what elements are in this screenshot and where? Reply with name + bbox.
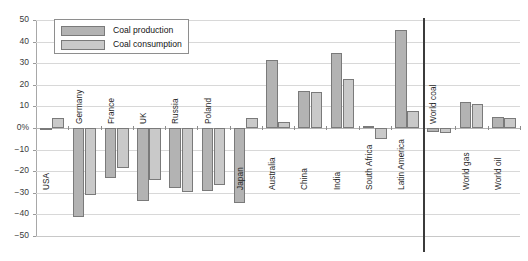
bar-prod	[137, 128, 149, 201]
bar-cons	[278, 122, 290, 128]
legend-swatch-coal-consumption	[61, 40, 105, 50]
bar-prod	[363, 126, 375, 128]
x-axis-tick	[391, 126, 392, 130]
bar-cons	[311, 92, 323, 128]
x-axis-category-label: Germany	[75, 90, 84, 124]
bar-prod	[460, 102, 472, 128]
x-axis-category-label: China	[300, 168, 309, 190]
chart-legend: Coal production Coal consumption	[54, 19, 189, 54]
x-axis-tick	[197, 126, 198, 130]
bar-prod	[298, 91, 310, 128]
bar-cons	[182, 128, 194, 192]
bar-prod	[492, 117, 504, 128]
y-axis-label: 10	[0, 100, 29, 110]
bar-prod	[169, 128, 181, 188]
x-axis-category-label: Poland	[204, 98, 213, 124]
bar-cons	[85, 128, 97, 195]
y-axis-label: −20	[0, 165, 29, 175]
y-axis-label: 20	[0, 79, 29, 89]
x-axis-tick	[68, 126, 69, 130]
x-axis-category-label: USA	[42, 173, 51, 190]
x-axis-category-label: World coal	[429, 84, 438, 124]
bar-prod	[266, 60, 278, 128]
bar-cons	[52, 118, 64, 128]
bar-cons	[440, 128, 452, 133]
bar-prod	[395, 30, 407, 128]
bar-cons	[117, 128, 129, 168]
x-axis-category-label: Australia	[268, 157, 277, 190]
x-axis-tick	[326, 126, 327, 130]
y-axis-label: −10	[0, 144, 29, 154]
x-axis-tick	[133, 126, 134, 130]
bar-cons	[149, 128, 161, 180]
x-axis-tick	[455, 126, 456, 130]
bar-cons	[214, 128, 226, 185]
coal-production-consumption-chart: 50403020100%−10−20−30−40−50 USAGermanyFr…	[0, 0, 528, 261]
x-axis-category-label: UK	[139, 112, 148, 124]
x-axis-tick	[165, 126, 166, 130]
y-axis-label: 0%	[0, 122, 29, 132]
x-axis-tick	[230, 126, 231, 130]
legend-swatch-coal-production	[61, 26, 105, 36]
y-axis-tick	[33, 236, 36, 237]
x-axis-tick	[488, 126, 489, 130]
x-axis-tick	[520, 126, 521, 130]
x-axis-category-label: World oil	[494, 157, 503, 190]
bar-prod	[331, 53, 343, 128]
bar-prod	[105, 128, 117, 178]
gridline	[36, 236, 520, 237]
bar-prod	[40, 128, 52, 130]
bar-cons	[504, 118, 516, 128]
bar-prod	[73, 128, 85, 217]
y-axis-label: −40	[0, 208, 29, 218]
x-axis-category-label: South Africa	[365, 145, 374, 190]
y-axis-label: 30	[0, 57, 29, 67]
y-axis-label: 40	[0, 36, 29, 46]
legend-label-coal-consumption: Coal consumption	[113, 39, 182, 49]
bar-cons	[375, 128, 387, 139]
x-axis-tick	[294, 126, 295, 130]
bar-prod	[202, 128, 214, 191]
bar-cons	[407, 111, 419, 128]
x-axis-category-label: France	[107, 98, 116, 124]
x-axis-category-label: Latin America	[397, 139, 406, 190]
x-axis-tick	[359, 126, 360, 130]
y-axis-label: −50	[0, 230, 29, 240]
bar-cons	[472, 104, 484, 128]
x-axis-tick	[101, 126, 102, 130]
y-axis-label: 50	[0, 14, 29, 24]
x-axis-tick	[262, 126, 263, 130]
x-axis-category-label: India	[333, 172, 342, 190]
legend-label-coal-production: Coal production	[113, 25, 173, 35]
x-axis-category-label: Russia	[171, 98, 180, 124]
bar-cons	[343, 79, 355, 128]
bar-prod	[427, 128, 439, 132]
bar-cons	[246, 118, 258, 128]
x-axis-category-label: World gas	[462, 152, 471, 190]
bar-prod	[234, 128, 246, 203]
group-separator-line	[423, 18, 424, 252]
x-axis-category-label: Japan	[236, 167, 245, 190]
y-axis-label: −30	[0, 187, 29, 197]
